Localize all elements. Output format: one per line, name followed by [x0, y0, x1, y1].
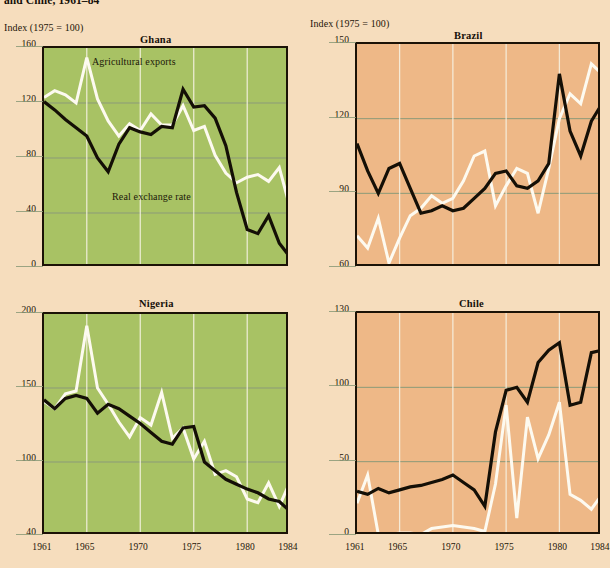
y-tick-label: 120 [317, 110, 349, 120]
y-tick-mark [16, 46, 43, 47]
y-tick-label: 50 [317, 453, 349, 463]
x-tick-label: 1965 [388, 542, 407, 552]
y-tick-label: 60 [317, 259, 349, 269]
y-tick-mark [16, 312, 43, 313]
panel-title-ghana: Ghana [140, 34, 171, 45]
x-tick-label: 1970 [129, 542, 148, 552]
y-tick-label: 160 [4, 39, 36, 49]
y-tick-mark [16, 386, 43, 387]
y-tick-label: 120 [4, 94, 36, 104]
series-line-agricultural-exports [357, 402, 600, 534]
series-line-real-exchange-rate [357, 74, 600, 213]
y-tick-mark [329, 311, 356, 312]
y-tick-label: 150 [4, 379, 36, 389]
chart-svg-nigeria [44, 314, 288, 534]
plot-area-nigeria [42, 312, 288, 534]
y-tick-label: 130 [317, 304, 349, 314]
panel-title-chile: Chile [459, 298, 484, 309]
y-tick-mark [329, 460, 356, 461]
series-line-real-exchange-rate [44, 89, 288, 257]
axis-note-brazil: Index (1975 = 100) [310, 18, 389, 29]
y-tick-mark [329, 534, 356, 535]
panel-brazil: Index (1975 = 100) Brazil 6090120150 [304, 0, 608, 290]
x-tick-label: 1984 [278, 542, 297, 552]
y-tick-mark [329, 191, 356, 192]
y-tick-label: 40 [4, 204, 36, 214]
series-line-agricultural-exports [44, 326, 288, 526]
y-tick-label: 100 [317, 378, 349, 388]
y-tick-label: 90 [317, 184, 349, 194]
y-tick-mark [329, 385, 356, 386]
x-tick-label: 1984 [590, 542, 609, 552]
x-tick-label: 1975 [182, 542, 201, 552]
x-tick-label: 1961 [345, 542, 364, 552]
y-tick-mark [329, 266, 356, 267]
x-tick-label: 1980 [236, 542, 255, 552]
panel-nigeria: Nigeria 40100150200 19611965197019751980… [0, 290, 304, 568]
x-tick-label: 1975 [494, 542, 513, 552]
y-tick-label: 80 [4, 149, 36, 159]
x-tick-label: 1965 [75, 542, 94, 552]
panel-title-nigeria: Nigeria [139, 298, 174, 309]
chart-svg-ghana [44, 48, 288, 266]
panel-title-brazil: Brazil [454, 30, 483, 41]
panel-chile: Chile 050100130 196119651970197519801984 [304, 290, 608, 568]
chart-svg-chile [357, 313, 600, 534]
y-tick-label: 200 [4, 305, 36, 315]
y-tick-mark [329, 42, 356, 43]
x-tick-label: 1970 [441, 542, 460, 552]
y-tick-mark [16, 534, 43, 535]
y-tick-label: 40 [4, 527, 36, 537]
y-tick-mark [329, 117, 356, 118]
plot-area-brazil [355, 42, 600, 266]
x-tick-label: 1961 [32, 542, 51, 552]
y-tick-label: 0 [4, 259, 36, 269]
series-line-real-exchange-rate [357, 343, 600, 507]
plot-area-chile [355, 311, 600, 534]
chart-svg-brazil [357, 44, 600, 266]
panel-ghana: Index (1975 = 100) Ghana Agricultural ex… [0, 0, 304, 290]
axis-note-ghana: Index (1975 = 100) [4, 22, 83, 33]
y-tick-mark [16, 266, 43, 267]
y-tick-mark [16, 460, 43, 461]
y-tick-label: 0 [317, 527, 349, 537]
series-label-agricultural-exports: Agricultural exports [92, 56, 176, 67]
y-tick-label: 100 [4, 453, 36, 463]
y-tick-label: 150 [317, 35, 349, 45]
x-tick-label: 1980 [548, 542, 567, 552]
series-label-real-exchange-rate: Real exchange rate [112, 191, 191, 202]
plot-area-ghana: Agricultural exports Real exchange rate [42, 46, 288, 266]
y-tick-mark [16, 156, 43, 157]
y-tick-mark [16, 211, 43, 212]
y-tick-mark [16, 101, 43, 102]
